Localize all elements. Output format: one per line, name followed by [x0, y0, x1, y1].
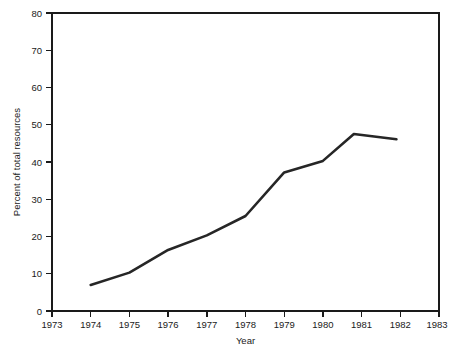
data-series-line: [91, 134, 397, 285]
x-tick-label-1980: 1980: [312, 319, 333, 330]
x-tick-label-1982: 1982: [390, 319, 411, 330]
x-tick-label-1974: 1974: [80, 319, 101, 330]
x-tick-label-1976: 1976: [158, 319, 179, 330]
y-tick-label-70: 70: [31, 45, 42, 56]
y-tick-label-20: 20: [31, 231, 42, 242]
y-tick-label-0: 0: [37, 306, 42, 317]
x-axis-tick-labels: 1973 1974 1975 1976 1977 1978 1979 1980 …: [41, 319, 447, 330]
y-tick-label-80: 80: [31, 8, 42, 19]
frame-path: [52, 13, 439, 311]
x-tick-label-1981: 1981: [351, 319, 372, 330]
y-tick-label-40: 40: [31, 157, 42, 168]
chart-container: 0 10 20 30 40 50 60 70 80 1973: [0, 0, 459, 349]
x-tick-label-1978: 1978: [235, 319, 256, 330]
y-tick-label-60: 60: [31, 82, 42, 93]
x-tick-label-1973: 1973: [41, 319, 62, 330]
y-axis-title: Percent of total resources: [11, 108, 22, 216]
y-tick-label-50: 50: [31, 119, 42, 130]
x-tick-label-1977: 1977: [196, 319, 217, 330]
y-axis-tick-labels: 0 10 20 30 40 50 60 70 80: [31, 8, 42, 317]
x-tick-label-1975: 1975: [119, 319, 140, 330]
line-chart: 0 10 20 30 40 50 60 70 80 1973: [0, 0, 459, 349]
y-tick-label-10: 10: [31, 268, 42, 279]
y-tick-label-30: 30: [31, 194, 42, 205]
x-tick-label-1983: 1983: [426, 319, 447, 330]
x-axis-title: Year: [236, 335, 255, 346]
x-tick-label-1979: 1979: [274, 319, 295, 330]
plot-frame: [52, 13, 439, 311]
